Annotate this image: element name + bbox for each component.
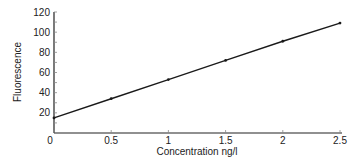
data-point-marker bbox=[167, 78, 170, 81]
x-tick-label: 0 bbox=[47, 135, 53, 146]
data-point-marker bbox=[281, 40, 284, 43]
data-point-marker bbox=[224, 59, 227, 62]
calibration-chart: 20406080100120 00.511.522.5 Concentratio… bbox=[0, 0, 355, 166]
y-tick-label: 20 bbox=[39, 107, 51, 118]
y-tick-label: 60 bbox=[39, 67, 51, 78]
series-line bbox=[54, 23, 340, 118]
data-series bbox=[53, 22, 342, 120]
data-point-marker bbox=[110, 97, 113, 100]
x-tick-label: 0.5 bbox=[104, 135, 118, 146]
y-tick-label: 80 bbox=[39, 47, 51, 58]
data-point-marker bbox=[53, 116, 56, 119]
y-tick-label: 100 bbox=[33, 27, 50, 38]
x-tick-label: 1 bbox=[166, 135, 172, 146]
x-tick-label: 2.5 bbox=[333, 135, 347, 146]
y-tick-label: 40 bbox=[39, 87, 51, 98]
x-tick-label: 2 bbox=[280, 135, 286, 146]
y-tick-label: 120 bbox=[33, 7, 50, 18]
axes bbox=[54, 12, 342, 133]
y-axis-label: Fluorescence bbox=[12, 42, 23, 102]
x-axis-label: Concentration ng/l bbox=[156, 146, 237, 157]
x-tick-label: 1.5 bbox=[219, 135, 233, 146]
data-point-marker bbox=[339, 22, 342, 25]
